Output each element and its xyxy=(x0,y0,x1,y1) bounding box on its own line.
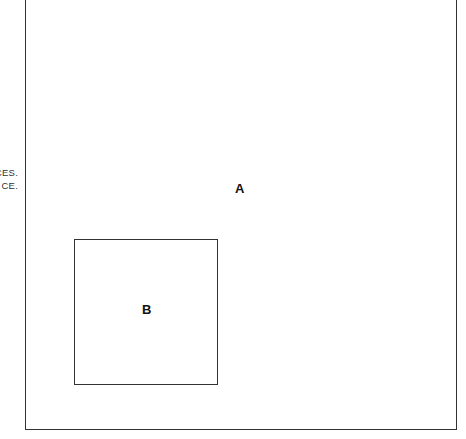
label-b: B xyxy=(142,302,151,317)
clipped-caption-line-1: CES. xyxy=(0,167,18,178)
clipped-caption-line-2: CE. xyxy=(2,180,18,191)
label-a: A xyxy=(235,181,244,196)
